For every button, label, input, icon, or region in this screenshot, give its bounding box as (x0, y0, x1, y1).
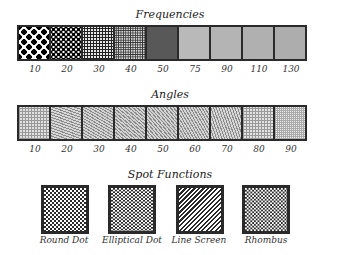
angle-label: 10 (19, 144, 51, 154)
angle-swatch-90 (275, 107, 305, 139)
freq-label: 10 (19, 64, 51, 74)
angle-swatch-10 (19, 107, 49, 139)
spot-elliptical-dot (108, 185, 156, 234)
angle-label: 80 (243, 144, 275, 154)
angle-label: 30 (83, 144, 115, 154)
spot-rhombus (242, 185, 290, 234)
freq-swatch-50 (147, 27, 177, 59)
angles-strip (17, 105, 307, 141)
freq-label: 130 (275, 64, 307, 74)
freq-swatch-30 (83, 27, 113, 59)
spot-functions-title: Spot Functions (120, 168, 220, 181)
freq-label: 110 (243, 64, 275, 74)
freq-swatch-90 (211, 27, 241, 59)
angle-swatch-40 (115, 107, 145, 139)
freq-swatch-110 (243, 27, 273, 59)
freq-swatch-130 (275, 27, 305, 59)
angle-swatch-80 (243, 107, 273, 139)
freq-label: 50 (147, 64, 179, 74)
angle-swatch-70 (211, 107, 241, 139)
freq-swatch-20 (51, 27, 81, 59)
angles-labels: 10 20 30 40 50 60 70 80 90 (19, 144, 307, 154)
freq-label: 20 (51, 64, 83, 74)
angle-label: 60 (179, 144, 211, 154)
angle-label: 90 (275, 144, 307, 154)
spot-label: Rhombus (226, 235, 306, 245)
spot-round-dot (41, 185, 89, 234)
angles-title: Angles (120, 88, 220, 101)
freq-label: 90 (211, 64, 243, 74)
frequencies-labels: 10 20 30 40 50 75 90 110 130 (19, 64, 307, 74)
frequencies-title: Frequencies (120, 8, 220, 21)
spot-line-screen (176, 185, 224, 234)
freq-label: 30 (83, 64, 115, 74)
freq-swatch-10 (19, 27, 49, 59)
angle-swatch-50 (147, 107, 177, 139)
angle-swatch-30 (83, 107, 113, 139)
angle-label: 40 (115, 144, 147, 154)
freq-swatch-75 (179, 27, 209, 59)
angle-label: 70 (211, 144, 243, 154)
angle-swatch-20 (51, 107, 81, 139)
angle-label: 50 (147, 144, 179, 154)
freq-label: 75 (179, 64, 211, 74)
freq-swatch-40 (115, 27, 145, 59)
angle-label: 20 (51, 144, 83, 154)
freq-label: 40 (115, 64, 147, 74)
angle-swatch-60 (179, 107, 209, 139)
frequencies-strip (17, 25, 307, 61)
